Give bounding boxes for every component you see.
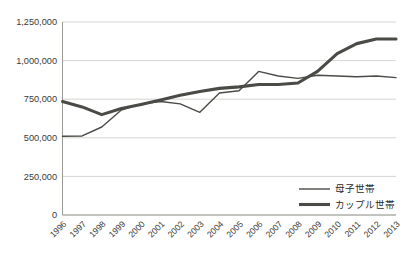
legend-label-2: カップル世帯 bbox=[335, 199, 395, 210]
line-chart: 0250,000500,000750,0001,000,0001,250,000… bbox=[0, 0, 411, 253]
y-tick-label: 500,000 bbox=[24, 133, 57, 143]
y-tick-label: 1,000,000 bbox=[16, 56, 57, 66]
y-tick-label: 250,000 bbox=[24, 172, 57, 182]
chart-canvas: 0250,000500,000750,0001,000,0001,250,000… bbox=[0, 0, 411, 253]
legend-label-1: 母子世帯 bbox=[335, 183, 375, 194]
y-tick-label: 0 bbox=[52, 210, 57, 220]
y-tick-label: 750,000 bbox=[24, 94, 57, 104]
y-tick-label: 1,250,000 bbox=[16, 17, 57, 27]
